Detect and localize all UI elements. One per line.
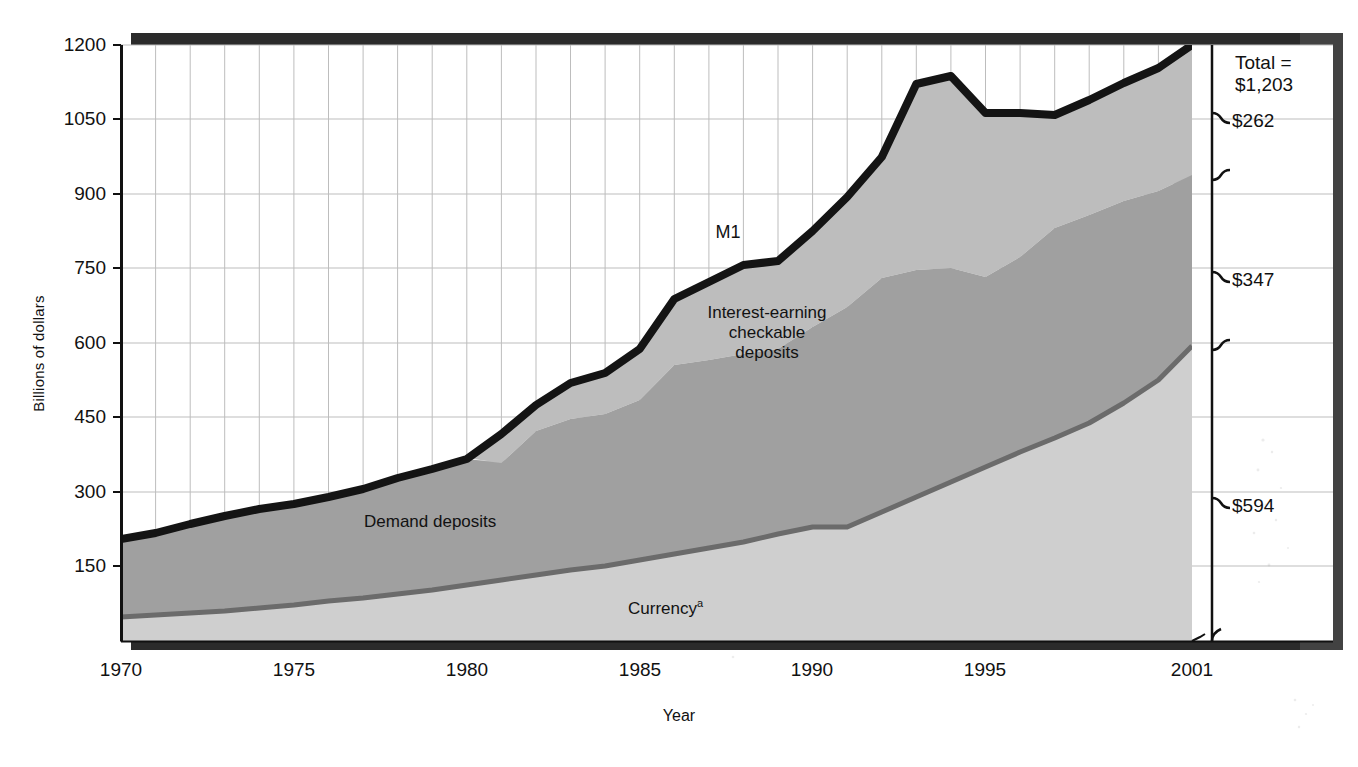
x-tick-1985: 1985 [580, 660, 700, 679]
y-tick-labels: 1200 1050 900 750 600 450 300 150 [14, 0, 106, 767]
series-label-m1: M1 [698, 222, 758, 243]
figure-canvas: Billions of dollars 1200 1050 900 750 60… [0, 0, 1358, 767]
series-label-currency: Currencya [628, 597, 788, 619]
stacked-area-chart [0, 0, 1358, 767]
x-axis-title: Year [0, 707, 1358, 725]
annotation-currency-value: $594 [1232, 495, 1274, 517]
x-tick-1995: 1995 [925, 660, 1045, 679]
series-label-demand-deposits: Demand deposits [364, 512, 564, 532]
currency-footnote-marker: a [697, 597, 703, 609]
y-tick-150: 150 [14, 556, 106, 575]
currency-text: Currency [628, 599, 697, 618]
y-tick-600: 600 [14, 333, 106, 352]
x-tick-1975: 1975 [234, 660, 354, 679]
y-tick-900: 900 [14, 184, 106, 203]
annotation-total: Total =$1,203 [1235, 52, 1345, 96]
x-tick-1980: 1980 [407, 660, 527, 679]
x-tick-2001: 2001 [1132, 660, 1252, 679]
x-tick-1970: 1970 [61, 660, 181, 679]
y-tick-750: 750 [14, 258, 106, 277]
annotation-total-line2: $1,203 [1235, 74, 1293, 95]
annotation-interest-value: $262 [1232, 110, 1274, 132]
y-tick-1050: 1050 [14, 109, 106, 128]
series-label-interest-earning-deposits: Interest-earning checkable deposits [672, 303, 862, 363]
y-tick-1200: 1200 [14, 35, 106, 54]
annotation-total-line1: Total = [1235, 52, 1292, 73]
y-tick-300: 300 [14, 482, 106, 501]
y-tick-450: 450 [14, 407, 106, 426]
annotation-demand-value: $347 [1232, 269, 1274, 291]
y-tickmarks [113, 45, 121, 566]
x-tick-1990: 1990 [752, 660, 872, 679]
